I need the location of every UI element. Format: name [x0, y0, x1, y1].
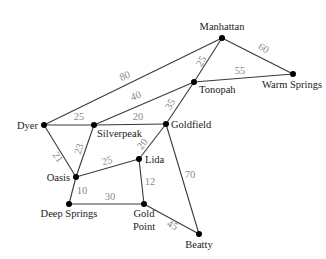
node-beatty — [196, 231, 202, 237]
node-dyer — [41, 122, 47, 128]
edges-layer — [44, 38, 293, 234]
edge-weight-label: 80 — [118, 69, 132, 83]
edge-weight-label: 45 — [165, 218, 179, 233]
edge-weight-label: 23 — [72, 142, 86, 155]
node-label-dyer: Dyer — [17, 120, 38, 131]
node-lida — [136, 156, 142, 162]
node-deep_springs — [66, 201, 72, 207]
edge-weight-label: 12 — [145, 176, 156, 187]
edge-weight-label: 25 — [100, 154, 113, 168]
edge-oasis-deep_springs — [69, 177, 76, 204]
node-label-silverpeak: Silverpeak — [97, 128, 143, 139]
edge-manhattan-warm_springs — [222, 38, 293, 74]
node-label-manhattan: Manhattan — [200, 21, 246, 32]
node-label-warm_springs: Warm Springs — [262, 79, 322, 90]
edge-weight-label: 25 — [194, 54, 209, 69]
edge-weight-label: 60 — [256, 41, 271, 56]
node-warm_springs — [290, 71, 296, 77]
edge-weight-label: 21 — [50, 150, 65, 165]
edge-weight-label: 25 — [74, 111, 85, 122]
edge-lida-gold_point — [139, 159, 144, 204]
node-label-goldfield: Goldfield — [171, 119, 212, 130]
node-manhattan — [219, 35, 225, 41]
node-tonopah — [191, 79, 197, 85]
node-label-deep_springs: Deep Springs — [41, 208, 98, 219]
nodes-layer — [41, 35, 296, 237]
node-gold_point — [141, 201, 147, 207]
edge-weight-label: 70 — [185, 169, 196, 180]
node-oasis — [73, 174, 79, 180]
weighted-graph-diagram: 8040252025605535212325207010123045 Manha… — [0, 0, 326, 259]
edge-weight-label: 20 — [133, 111, 144, 122]
edge-weight-label: 40 — [129, 89, 143, 103]
edge-weight-label: 10 — [77, 185, 88, 196]
node-label-oasis: Oasis — [47, 172, 70, 183]
edge-weight-label: 30 — [105, 191, 116, 202]
node-label-gold_point: Gold — [134, 208, 156, 219]
node-label-beatty: Beatty — [185, 239, 213, 250]
edge-weight-label: 55 — [235, 65, 246, 76]
node-goldfield — [163, 121, 169, 127]
edge-silverpeak-goldfield — [94, 124, 166, 125]
node-label-tonopah: Tonopah — [199, 84, 236, 95]
node-label-lida: Lida — [145, 154, 165, 165]
node-label-gold_point-line2: Point — [133, 221, 155, 232]
